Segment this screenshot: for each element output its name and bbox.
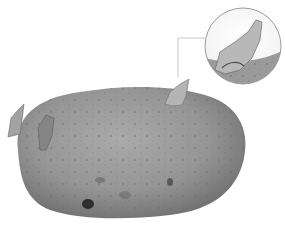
leader-line xyxy=(178,38,205,78)
potato-illustration xyxy=(0,0,285,232)
potato-body xyxy=(18,87,246,218)
potato-blemish xyxy=(82,199,94,209)
potato-figure xyxy=(0,0,285,232)
magnified-inset xyxy=(205,8,285,90)
